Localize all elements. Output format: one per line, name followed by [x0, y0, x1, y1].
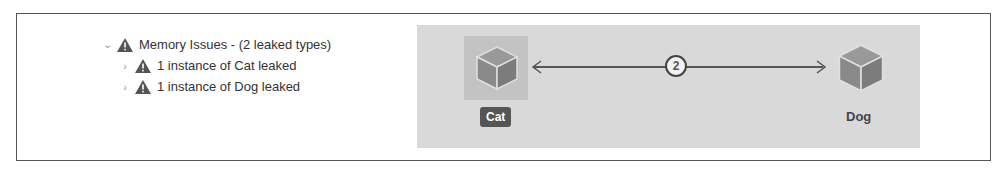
tree-item-dog-leak[interactable]: › 1 instance of Dog leaked	[100, 76, 331, 97]
warning-icon	[135, 80, 151, 94]
node-label: Cat	[480, 107, 511, 127]
tree-item-memory-issues[interactable]: ⌄ Memory Issues - (2 leaked types)	[100, 34, 331, 55]
tree-item-cat-leak[interactable]: › 1 instance of Cat leaked	[100, 55, 331, 76]
cube-icon	[834, 41, 888, 95]
tree-item-label: 1 instance of Cat leaked	[157, 58, 296, 73]
chevron-right-icon[interactable]: ›	[118, 60, 132, 72]
tree-item-label: Memory Issues - (2 leaked types)	[139, 37, 331, 52]
edge-count-badge[interactable]: 2	[665, 55, 687, 77]
chevron-right-icon[interactable]: ›	[118, 81, 132, 93]
memory-issues-tree: ⌄ Memory Issues - (2 leaked types) › 1 i…	[100, 34, 331, 97]
chevron-down-icon[interactable]: ⌄	[100, 38, 114, 51]
warning-icon	[117, 38, 133, 52]
arrowhead-left-icon	[531, 60, 543, 74]
warning-icon	[135, 59, 151, 73]
cube-icon	[472, 43, 522, 93]
arrowhead-right-icon	[815, 60, 827, 74]
tree-item-label: 1 instance of Dog leaked	[157, 79, 300, 94]
node-label: Dog	[846, 109, 871, 124]
